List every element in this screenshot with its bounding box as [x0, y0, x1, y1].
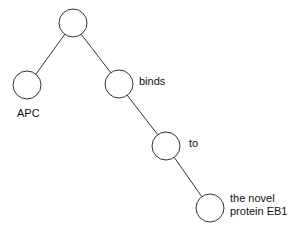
- edge-to-eb1: [174, 157, 202, 197]
- label-eb1-line2: protein EB1: [230, 205, 287, 218]
- edge-binds-to: [127, 95, 158, 135]
- label-eb1-line1: the novel: [230, 192, 275, 205]
- label-to: to: [189, 137, 198, 150]
- edge-root-binds: [81, 34, 111, 73]
- label-binds: binds: [139, 75, 165, 88]
- label-apc: APC: [17, 107, 40, 120]
- node-to: [152, 132, 180, 160]
- node-eb1: [196, 194, 224, 222]
- node-root: [59, 9, 87, 37]
- node-binds: [105, 70, 133, 98]
- edge-root-apc: [36, 34, 65, 74]
- node-apc: [13, 71, 41, 99]
